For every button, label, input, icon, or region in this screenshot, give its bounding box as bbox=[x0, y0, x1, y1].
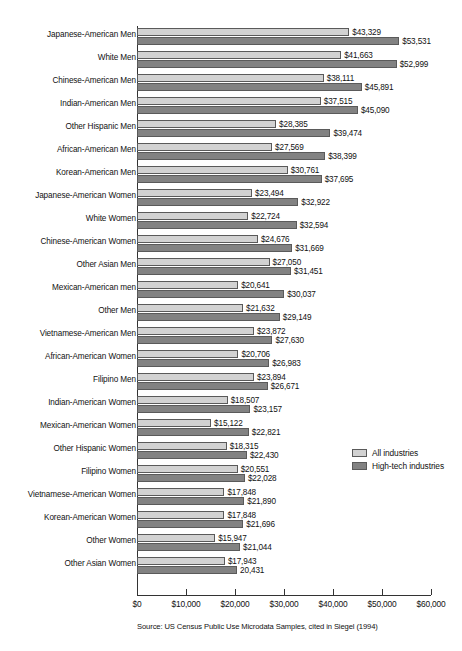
bar-value-label: $26,671 bbox=[271, 382, 300, 391]
bar-all-industries bbox=[137, 442, 227, 450]
category-label: African-American Women bbox=[0, 352, 136, 362]
legend-swatch-dark bbox=[352, 462, 367, 470]
chart-rows: Japanese-American Men$43,329$53,531White… bbox=[0, 26, 462, 578]
bar-group: $22,724$32,594 bbox=[137, 210, 462, 233]
bar-value-label: $31,451 bbox=[294, 267, 323, 276]
bar-value-label: $27,050 bbox=[273, 258, 302, 267]
chart-legend: All industriesHigh-tech industries bbox=[352, 448, 444, 474]
category-label: Filipino Men bbox=[0, 375, 136, 385]
bar-all-industries bbox=[137, 258, 270, 266]
x-axis-tick bbox=[137, 589, 138, 595]
bar-high-tech-industries bbox=[137, 152, 325, 160]
bar-value-label: $39,474 bbox=[333, 129, 362, 138]
bar-value-label: $20,551 bbox=[241, 465, 270, 474]
bar-value-label: $21,044 bbox=[243, 543, 272, 552]
bar-high-tech-industries bbox=[137, 382, 268, 390]
bar-all-industries bbox=[137, 327, 254, 335]
bar-all-industries bbox=[137, 534, 215, 542]
bar-all-industries bbox=[137, 28, 349, 36]
chart-row: Mexican-American men$20,641$30,037 bbox=[0, 279, 462, 302]
bar-high-tech-industries bbox=[137, 520, 243, 528]
legend-label: All industries bbox=[372, 448, 418, 458]
bar-all-industries bbox=[137, 166, 288, 174]
chart-row: Other Asian Women$17,94320,431 bbox=[0, 555, 462, 578]
bar-value-label: $22,430 bbox=[250, 451, 279, 460]
bar-all-industries bbox=[137, 488, 224, 496]
category-label: Japanese-American Men bbox=[0, 30, 136, 40]
x-axis-tick bbox=[186, 589, 187, 595]
category-label: Chinese-American Men bbox=[0, 76, 136, 86]
bar-high-tech-industries bbox=[137, 175, 322, 183]
legend-item: High-tech industries bbox=[352, 461, 444, 471]
bar-value-label: $23,157 bbox=[253, 405, 282, 414]
bar-all-industries bbox=[137, 465, 238, 473]
bar-all-industries bbox=[137, 143, 272, 151]
bar-value-label: $43,329 bbox=[352, 28, 381, 37]
bar-high-tech-industries bbox=[137, 543, 240, 551]
bar-group: $23,494$32,922 bbox=[137, 187, 462, 210]
bar-all-industries bbox=[137, 281, 238, 289]
bar-value-label: $52,999 bbox=[400, 60, 429, 69]
category-label: Other Asian Men bbox=[0, 260, 136, 270]
bar-group: $18,507$23,157 bbox=[137, 394, 462, 417]
bar-value-label: $22,724 bbox=[251, 212, 280, 221]
bar-value-label: $18,315 bbox=[230, 442, 259, 451]
bar-all-industries bbox=[137, 373, 254, 381]
bar-all-industries bbox=[137, 212, 248, 220]
bar-value-label: $29,149 bbox=[283, 313, 312, 322]
bar-high-tech-industries bbox=[137, 106, 358, 114]
bar-value-label: $21,890 bbox=[247, 497, 276, 506]
bar-value-label: $45,891 bbox=[365, 83, 394, 92]
bar-all-industries bbox=[137, 189, 252, 197]
bar-value-label: $27,630 bbox=[275, 336, 304, 345]
bar-chart: Japanese-American Men$43,329$53,531White… bbox=[0, 0, 462, 651]
legend-label: High-tech industries bbox=[372, 461, 444, 471]
bar-value-label: $17,943 bbox=[228, 557, 257, 566]
x-axis-tick bbox=[333, 589, 334, 595]
bar-value-label: $21,696 bbox=[246, 520, 275, 529]
chart-row: Filipino Men$23,894$26,671 bbox=[0, 371, 462, 394]
bar-value-label: $15,122 bbox=[214, 419, 243, 428]
chart-row: Japanese-American Women$23,494$32,922 bbox=[0, 187, 462, 210]
bar-all-industries bbox=[137, 120, 276, 128]
bar-all-industries bbox=[137, 419, 211, 427]
bar-value-label: $37,695 bbox=[325, 175, 354, 184]
x-axis-tick bbox=[235, 589, 236, 595]
bar-group: $27,569$38,399 bbox=[137, 141, 462, 164]
bar-value-label: 20,431 bbox=[240, 566, 264, 575]
bar-group: $20,706$26,983 bbox=[137, 348, 462, 371]
chart-row: African-American Men$27,569$38,399 bbox=[0, 141, 462, 164]
bar-high-tech-industries bbox=[137, 359, 269, 367]
x-axis-tick-label: $10,000 bbox=[172, 599, 201, 609]
chart-row: Mexican-American Women$15,122$22,821 bbox=[0, 417, 462, 440]
bar-value-label: $20,706 bbox=[241, 350, 270, 359]
bar-high-tech-industries bbox=[137, 60, 397, 68]
bar-group: $15,947$21,044 bbox=[137, 532, 462, 555]
category-label: Other Men bbox=[0, 306, 136, 316]
chart-row: White Women$22,724$32,594 bbox=[0, 210, 462, 233]
bar-value-label: $30,037 bbox=[287, 290, 316, 299]
category-label: Filipino Women bbox=[0, 467, 136, 477]
chart-row: Other Men$21,632$29,149 bbox=[0, 302, 462, 325]
x-axis-line bbox=[137, 595, 431, 596]
x-axis-tick-label: $30,000 bbox=[270, 599, 299, 609]
bar-group: $20,641$30,037 bbox=[137, 279, 462, 302]
bar-high-tech-industries bbox=[137, 566, 237, 574]
chart-row: Other Asian Men$27,050$31,451 bbox=[0, 256, 462, 279]
bar-high-tech-industries bbox=[137, 83, 362, 91]
chart-row: Chinese-American Women$24,676$31,669 bbox=[0, 233, 462, 256]
bar-high-tech-industries bbox=[137, 290, 284, 298]
bar-value-label: $15,947 bbox=[218, 534, 247, 543]
bar-group: $37,515$45,090 bbox=[137, 95, 462, 118]
bar-high-tech-industries bbox=[137, 244, 292, 252]
bar-value-label: $23,494 bbox=[255, 189, 284, 198]
bar-high-tech-industries bbox=[137, 451, 247, 459]
bar-value-label: $37,515 bbox=[324, 97, 353, 106]
bar-group: $17,848$21,890 bbox=[137, 486, 462, 509]
bar-high-tech-industries bbox=[137, 37, 399, 45]
category-label: Other Women bbox=[0, 536, 136, 546]
bar-value-label: $30,761 bbox=[291, 166, 320, 175]
bar-value-label: $41,663 bbox=[344, 51, 373, 60]
bar-value-label: $20,641 bbox=[241, 281, 270, 290]
category-label: Indian-American Women bbox=[0, 398, 136, 408]
